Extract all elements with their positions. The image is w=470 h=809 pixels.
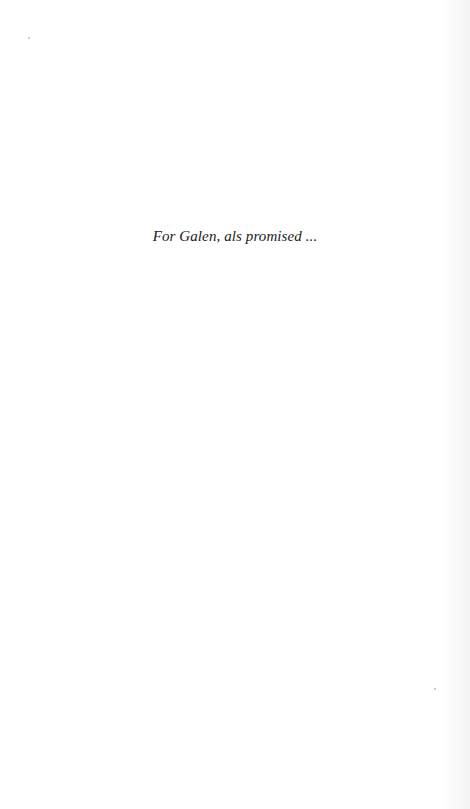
scan-speck [434,688,436,690]
dedication-text: For Galen, als promised ... [0,228,470,245]
scan-speck [28,37,30,39]
book-page: For Galen, als promised ... [0,0,470,809]
